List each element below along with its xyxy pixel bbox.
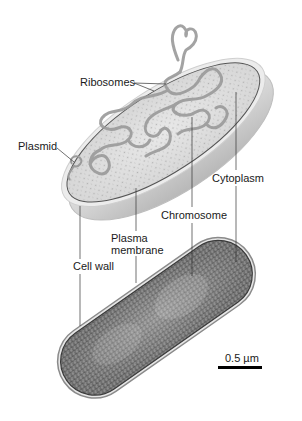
label-cell-wall: Cell wall	[73, 260, 114, 272]
label-plasma-membrane-line1: Plasma	[111, 232, 148, 244]
leader-plasmid	[57, 148, 74, 162]
label-plasmid: Plasmid	[18, 140, 57, 152]
bacterial-cell-diagram: Ribosomes Plasmid Cytoplasm Chromosome P…	[0, 0, 302, 421]
label-plasma-membrane: Plasma membrane	[111, 232, 164, 256]
label-chromosome: Chromosome	[161, 209, 227, 221]
scale-bar	[218, 366, 262, 369]
label-ribosomes: Ribosomes	[80, 76, 135, 88]
label-cytoplasm: Cytoplasm	[212, 172, 264, 184]
scale-bar-label: 0.5 µm	[225, 352, 259, 364]
leader-ribosomes-1	[134, 83, 154, 91]
label-plasma-membrane-line2: membrane	[111, 244, 164, 256]
